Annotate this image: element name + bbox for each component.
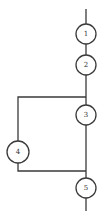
edge-2-4 — [18, 97, 86, 141]
node-2-label: 2 — [84, 61, 88, 69]
node-5: 5 — [76, 178, 96, 198]
node-2: 2 — [76, 55, 96, 75]
node-4-label: 4 — [16, 148, 21, 156]
node-1-label: 1 — [84, 30, 88, 38]
node-4: 4 — [7, 141, 29, 163]
edge-4-5 — [18, 163, 86, 171]
node-3-label: 3 — [84, 111, 88, 119]
node-5-label: 5 — [84, 184, 88, 192]
node-3: 3 — [76, 105, 96, 125]
flow-graph: 1 2 3 4 5 — [0, 0, 105, 220]
node-1: 1 — [76, 24, 96, 44]
